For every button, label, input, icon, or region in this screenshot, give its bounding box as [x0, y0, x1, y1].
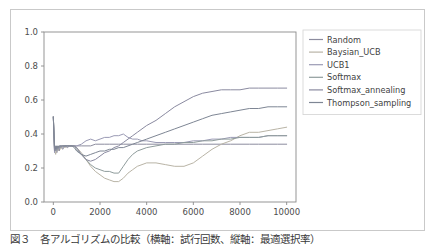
figure-caption: 図３ 各アルゴリズムの比較（横軸：試行回数、縦軸：最適選択率）: [10, 234, 430, 245]
series-line-thompson-sampling: [53, 107, 286, 156]
figure-panel: 02000400060008000100000.00.20.40.60.81.0…: [10, 9, 425, 231]
legend-label: Thompson_sampling: [326, 98, 411, 108]
line-chart: 02000400060008000100000.00.20.40.60.81.0…: [11, 10, 426, 232]
x-tick-label: 2000: [89, 207, 111, 217]
series-line-random: [53, 117, 286, 153]
legend-label: Baysian_UCB: [327, 47, 381, 57]
legend-label: Random: [327, 35, 361, 45]
legend-label: Softmax: [327, 72, 361, 82]
y-tick-label: 0.0: [24, 197, 38, 207]
legend-label: Softmax_annealing: [327, 85, 405, 95]
y-tick-label: 0.6: [24, 95, 38, 105]
series-line-ucb1: [53, 117, 286, 153]
y-tick-label: 1.0: [24, 27, 38, 37]
y-tick-label: 0.2: [24, 163, 38, 173]
chart-screenshot: 02000400060008000100000.00.20.40.60.81.0…: [0, 0, 437, 245]
series-line-softmax-annealing: [53, 88, 286, 161]
series-line-baysian-ucb: [53, 117, 286, 182]
plot-frame: [44, 32, 296, 202]
series-line-softmax: [53, 117, 286, 173]
x-tick-label: 6000: [183, 207, 205, 217]
x-tick-label: 10000: [273, 207, 300, 217]
y-tick-label: 0.8: [24, 61, 38, 71]
legend-label: UCB1: [327, 60, 350, 70]
x-tick-label: 8000: [229, 207, 251, 217]
x-tick-label: 0: [51, 207, 56, 217]
x-tick-label: 4000: [136, 207, 158, 217]
y-tick-label: 0.4: [24, 129, 38, 139]
